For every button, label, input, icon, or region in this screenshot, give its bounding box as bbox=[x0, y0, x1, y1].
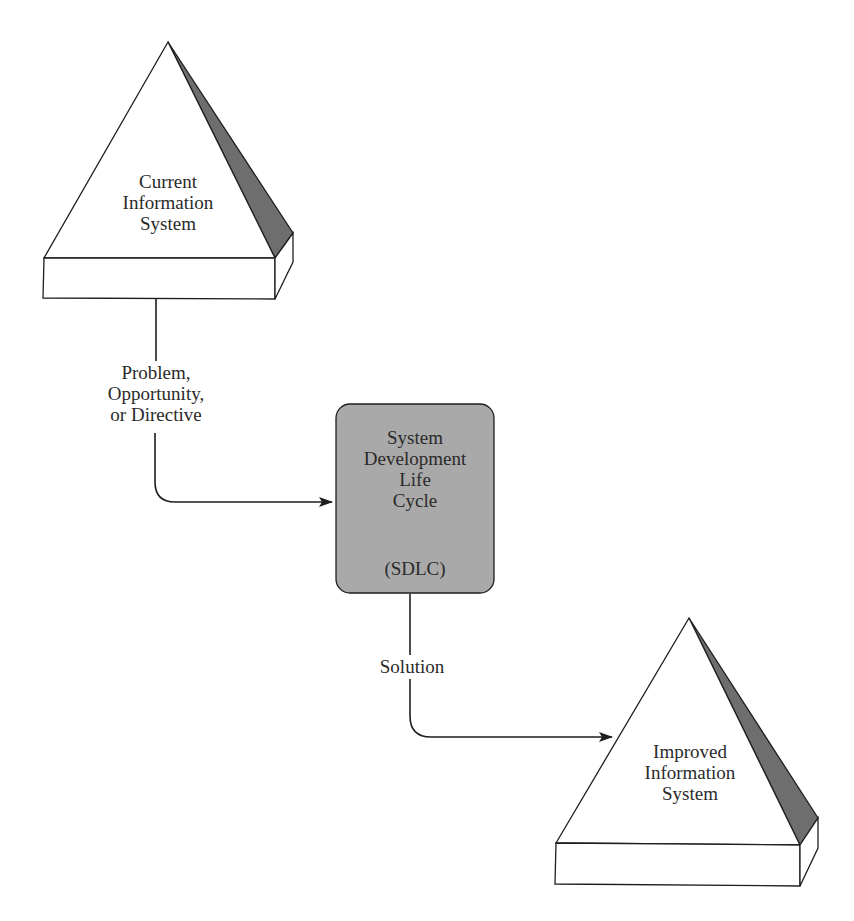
output-edge-label: Solution bbox=[352, 656, 472, 677]
current-system-label: Current Information System bbox=[98, 171, 238, 234]
improved-system-line-3: System bbox=[620, 783, 760, 804]
improved-system-label: Improved Information System bbox=[620, 741, 760, 804]
current-system-line-3: System bbox=[98, 213, 238, 234]
improved-system-line-1: Improved bbox=[620, 741, 760, 762]
current-system-line-1: Current bbox=[98, 171, 238, 192]
input-edge-line-1: Problem, bbox=[86, 362, 226, 383]
sdlc-line-3: Life bbox=[345, 469, 485, 490]
input-edge-label: Problem, Opportunity, or Directive bbox=[86, 362, 226, 425]
input-edge-line-3: or Directive bbox=[86, 404, 226, 425]
improved-system-line-2: Information bbox=[620, 762, 760, 783]
input-edge-line-2: Opportunity, bbox=[86, 383, 226, 404]
sdlc-line-4: Cycle bbox=[345, 490, 485, 511]
sdlc-abbreviation: (SDLC) bbox=[345, 558, 485, 579]
sdlc-label: System Development Life Cycle bbox=[345, 427, 485, 511]
sdlc-line-2: Development bbox=[345, 448, 485, 469]
current-system-line-2: Information bbox=[98, 192, 238, 213]
sdlc-line-1: System bbox=[345, 427, 485, 448]
